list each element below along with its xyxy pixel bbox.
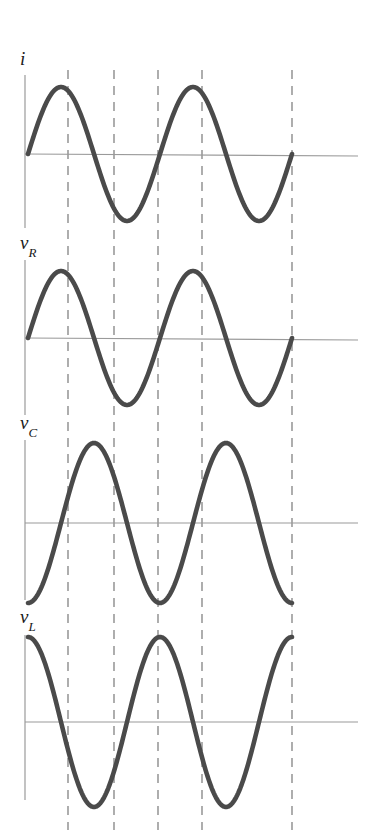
panel-label-resistor-voltage: vR (20, 232, 36, 258)
panel-label-capacitor-voltage: vC (20, 412, 37, 438)
label-subscript-vr: R (28, 245, 36, 260)
panel-label-inductor-voltage: vL (20, 606, 36, 632)
x-axis-resistor-voltage (25, 338, 358, 340)
axis-lines (25, 75, 358, 800)
x-axis-current (25, 154, 358, 156)
label-subscript-vl: L (28, 619, 35, 634)
panel-label-current: i (20, 48, 25, 74)
label-subscript-vc: C (28, 425, 37, 440)
waveform-plot-svg (0, 0, 381, 840)
label-symbol-i: i (20, 48, 25, 69)
waveform-figure: i vR vC vL (0, 0, 381, 840)
